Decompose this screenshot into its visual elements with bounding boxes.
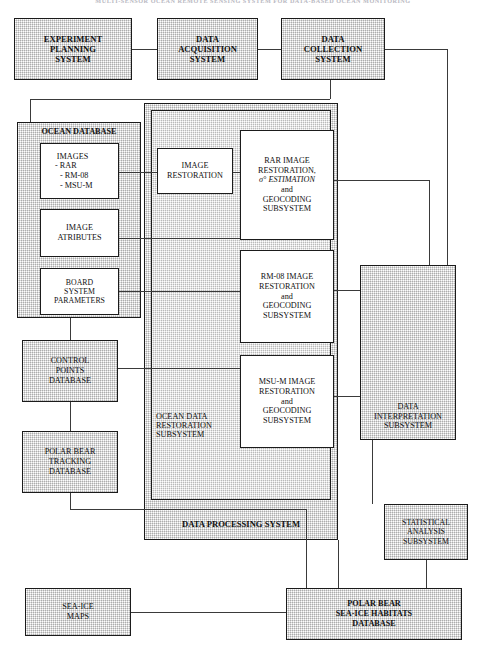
- box-rm08-image-restoration-subsystem[interactable]: RM-08 IMAGE RESTORATION and GEOCODING SU…: [240, 250, 334, 343]
- box-experiment-planning-system[interactable]: EXPERIMENT PLANNING SYSTEM: [14, 18, 132, 80]
- box-ocean-db-image-attributes[interactable]: IMAGE ATRIBUTES: [40, 209, 119, 257]
- box-line: SEA-ICE: [62, 602, 93, 612]
- box-line: PLANNING: [50, 44, 96, 54]
- box-line: RESTORATION: [259, 387, 315, 397]
- box-line: MSU-M IMAGE: [259, 377, 316, 387]
- connector-control-points-to-tracking: [70, 402, 71, 431]
- box-line: SEA-ICE HABITATS: [336, 609, 412, 619]
- box-ocean-db-images[interactable]: IMAGES - RAR - RM-08 - MSU-M: [40, 143, 119, 199]
- box-sea-ice-maps[interactable]: SEA-ICE MAPS: [25, 588, 131, 636]
- group-label-ocean-database: OCEAN DATABASE: [21, 127, 137, 136]
- connector-planning-to-acquisition: [132, 49, 157, 50]
- connector-sea-ice-maps-to-habitats: [131, 612, 286, 613]
- group-label-line: SUBSYSTEM: [156, 430, 244, 439]
- box-line: DATA: [397, 402, 418, 412]
- box-line: MAPS: [67, 612, 89, 622]
- box-line: COLLECTION: [304, 44, 362, 54]
- box-line: RESTORATION: [259, 282, 315, 292]
- box-line: SUBSYSTEM: [384, 421, 432, 431]
- connector-tracking-bus-to-habitats: [306, 509, 307, 588]
- box-line: RAR IMAGE: [264, 156, 310, 166]
- box-line: DATABASE: [352, 619, 395, 629]
- box-line: DATABASE: [49, 467, 91, 477]
- connector-collection-to-dps-bus: [30, 99, 330, 100]
- box-line: SUBSYSTEM: [403, 537, 449, 546]
- box-line: and: [281, 292, 293, 302]
- box-data-acquisition-system[interactable]: DATA ACQUISITION SYSTEM: [157, 18, 258, 80]
- group-label-data-processing-system: DATA PROCESSING SYSTEM: [160, 519, 322, 529]
- group-label-line: OCEAN DATA: [156, 412, 244, 421]
- box-rar-image-restoration-subsystem[interactable]: RAR IMAGE RESTORATION, σ° ESTIMATION and…: [240, 130, 334, 240]
- connector-acquisition-to-collection: [258, 49, 281, 50]
- box-line: GEOCODING: [263, 195, 312, 205]
- box-line: GEOCODING: [263, 301, 312, 311]
- box-line: and: [281, 185, 293, 195]
- connector-rm08-to-interpretation: [334, 290, 360, 291]
- connector-collection-down: [330, 80, 331, 99]
- box-statistical-analysis-subsystem[interactable]: STATISTICAL ANALYSIS SUBSYSTEM: [384, 504, 468, 560]
- box-data-collection-system[interactable]: DATA COLLECTION SYSTEM: [281, 18, 385, 80]
- box-line: - MSU-M: [55, 181, 93, 191]
- group-label-line: RESTORATION: [156, 421, 244, 430]
- connector-control-points-to-subsystems: [118, 368, 240, 369]
- box-line: RM-08 IMAGE: [261, 272, 314, 282]
- box-line: SUBSYSTEM: [263, 311, 311, 321]
- box-ocean-db-board-system-parameters[interactable]: BOARD SYSTEM PARAMETERS: [40, 268, 119, 315]
- box-control-points-database[interactable]: CONTROL POINTS DATABASE: [22, 340, 118, 402]
- box-polar-bear-tracking-database[interactable]: POLAR BEAR TRACKING DATABASE: [22, 431, 118, 493]
- connector-tracking-down: [70, 493, 71, 509]
- connector-board-params-to-subsystems: [119, 291, 240, 292]
- box-line: BOARD: [66, 278, 93, 287]
- connector-dps-to-habitats: [338, 540, 339, 588]
- box-line: SUBSYSTEM: [263, 204, 311, 214]
- box-line: SYSTEM: [64, 287, 95, 296]
- group-label-ocean-data-restoration: OCEAN DATA RESTORATION SUBSYSTEM: [156, 412, 244, 439]
- box-line: ANALYSIS: [407, 527, 445, 536]
- box-line: POINTS: [56, 366, 85, 376]
- box-line: SYSTEM: [315, 54, 350, 64]
- box-line: ATRIBUTES: [57, 233, 101, 243]
- connector-statistical-to-habitats: [426, 560, 427, 588]
- box-line: EXPERIMENT: [44, 34, 102, 44]
- box-line: and: [281, 397, 293, 407]
- connector-bus-down-to-ocean-db: [30, 99, 31, 122]
- connector-interpretation-to-statistical: [372, 440, 373, 504]
- connector-msum-to-interpretation: [334, 396, 360, 397]
- box-line: DATA: [321, 34, 344, 44]
- box-line: - RM-08: [55, 171, 88, 181]
- box-line-sigma: σ° ESTIMATION: [259, 175, 315, 185]
- box-line: RESTORATION,: [258, 166, 316, 176]
- box-line: IMAGES: [41, 152, 104, 162]
- box-line: STATISTICAL: [402, 518, 450, 527]
- connector-attributes-to-rm08: [119, 238, 240, 239]
- box-line: SUBSYSTEM: [263, 416, 311, 426]
- box-msum-image-restoration-subsystem[interactable]: MSU-M IMAGE RESTORATION and GEOCODING SU…: [240, 355, 334, 448]
- box-line: GEOCODING: [263, 406, 312, 416]
- connector-images-to-image-restoration: [119, 172, 157, 173]
- box-line: DATA: [196, 34, 219, 44]
- box-line: IMAGE: [66, 223, 93, 233]
- connector-rar-to-interpretation: [334, 180, 429, 181]
- box-data-interpretation-subsystem[interactable]: DATA INTERPRETATION SUBSYSTEM: [360, 265, 456, 440]
- box-line: DATABASE: [49, 376, 91, 386]
- connector-tracking-bus-right: [70, 509, 306, 510]
- connector-collection-right: [385, 49, 447, 50]
- box-line: CONTROL: [51, 356, 90, 366]
- diagram-canvas: MULTI-SENSOR OCEAN REMOTE SENSING SYSTEM…: [0, 0, 480, 666]
- box-line: SYSTEM: [190, 54, 225, 64]
- box-line: POLAR BEAR: [347, 599, 400, 609]
- box-line: - RAR: [55, 161, 77, 171]
- box-polar-bear-sea-ice-habitats-database[interactable]: POLAR BEAR SEA-ICE HABITATS DATABASE: [286, 588, 462, 640]
- box-line: SYSTEM: [55, 54, 90, 64]
- connector-image-restoration-to-rar: [233, 172, 240, 173]
- box-line: RESTORATION: [167, 171, 223, 181]
- box-line: PARAMETERS: [54, 296, 105, 305]
- running-head: MULTI-SENSOR OCEAN REMOTE SENSING SYSTEM…: [38, 0, 468, 8]
- box-image-restoration[interactable]: IMAGE RESTORATION: [157, 148, 233, 194]
- box-line: POLAR BEAR: [45, 447, 96, 457]
- connector-rar-down: [429, 180, 430, 265]
- box-line: ACQUISITION: [178, 44, 237, 54]
- box-line: INTERPRETATION: [374, 412, 442, 422]
- box-line: TRACKING: [49, 457, 91, 467]
- connector-ocean-db-to-control-points: [70, 318, 71, 340]
